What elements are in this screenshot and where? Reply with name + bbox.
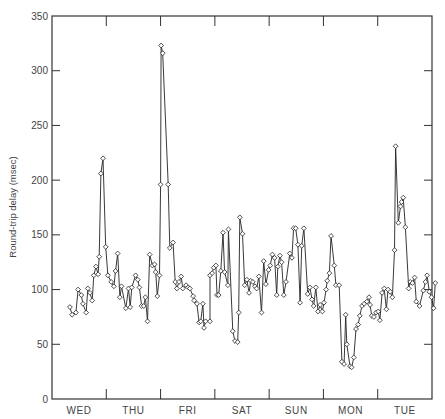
data-point-marker xyxy=(76,287,81,292)
data-point-marker xyxy=(106,273,111,278)
data-point-marker xyxy=(368,302,373,307)
data-point-marker xyxy=(351,355,356,360)
x-tick-label-fri: FRI xyxy=(179,405,197,416)
data-point-marker xyxy=(226,227,231,232)
data-point-marker xyxy=(113,269,118,274)
data-point-marker xyxy=(135,277,140,282)
data-point-marker xyxy=(390,295,395,300)
data-point-marker xyxy=(159,43,164,48)
data-point-marker xyxy=(354,327,359,332)
data-point-marker xyxy=(85,286,90,291)
data-point-marker xyxy=(287,251,292,256)
data-point-marker xyxy=(155,294,160,299)
y-tick-label: 250 xyxy=(31,120,48,131)
y-tick-label: 150 xyxy=(31,229,48,240)
data-point-marker xyxy=(91,273,96,278)
data-point-marker xyxy=(128,305,133,310)
data-point-marker xyxy=(393,144,398,149)
data-point-marker xyxy=(109,280,114,285)
data-point-marker xyxy=(117,295,122,300)
data-point-marker xyxy=(147,252,152,257)
data-point-marker xyxy=(311,304,316,309)
data-point-marker xyxy=(329,234,334,239)
data-point-marker xyxy=(153,270,158,275)
data-point-marker xyxy=(98,171,103,176)
y-tick-label: 200 xyxy=(31,175,48,186)
line-chart: 050100150200250300350 WEDTHUFRISATSUNMON… xyxy=(0,0,445,419)
data-point-marker xyxy=(412,275,417,280)
data-point-marker xyxy=(279,260,284,265)
data-point-marker xyxy=(377,318,382,323)
data-point-marker xyxy=(421,288,426,293)
x-tick-label-thu: THU xyxy=(122,405,144,416)
x-tick-label-mon: MON xyxy=(338,405,363,416)
data-point-marker xyxy=(320,309,325,314)
data-point-marker xyxy=(325,278,330,283)
data-point-marker xyxy=(384,307,389,312)
data-point-marker xyxy=(68,305,73,310)
data-point-marker xyxy=(301,226,306,231)
x-tick-label-tue: TUE xyxy=(394,405,416,416)
data-point-marker xyxy=(143,295,148,300)
data-point-marker xyxy=(88,290,93,295)
data-point-marker xyxy=(281,293,286,298)
data-point-marker xyxy=(307,285,312,290)
data-point-marker xyxy=(332,263,337,268)
data-point-marker xyxy=(327,271,332,276)
data-point-marker xyxy=(433,281,438,286)
data-point-marker xyxy=(123,306,128,311)
data-point-marker xyxy=(230,329,235,334)
data-point-marker xyxy=(133,273,138,278)
data-point-marker xyxy=(263,282,268,287)
data-point-marker xyxy=(324,287,329,292)
y-axis-title: Round-trip delay (msec) xyxy=(7,156,18,257)
data-point-marker xyxy=(343,312,348,317)
y-tick-label: 100 xyxy=(31,284,48,295)
data-point-marker xyxy=(174,286,179,291)
data-point-marker xyxy=(111,284,116,289)
data-point-marker xyxy=(158,182,163,187)
data-point-marker xyxy=(177,280,182,285)
data-point-marker xyxy=(427,289,432,294)
data-point-marker xyxy=(403,225,408,230)
data-point-marker xyxy=(337,283,342,288)
data-point-marker xyxy=(298,300,303,305)
data-point-marker xyxy=(81,301,86,306)
data-point-marker xyxy=(137,285,142,290)
x-tick-label-sat: SAT xyxy=(232,405,253,416)
data-point-marker xyxy=(313,285,318,290)
data-point-marker xyxy=(242,283,247,288)
plot-frame xyxy=(52,16,432,399)
y-tick-label: 50 xyxy=(37,339,49,350)
data-point-marker xyxy=(179,274,184,279)
data-point-marker xyxy=(225,283,230,288)
data-point-marker xyxy=(103,244,108,249)
data-point-marker xyxy=(240,231,245,236)
data-point-marker xyxy=(157,273,162,278)
data-point-marker xyxy=(423,280,428,285)
data-point-marker xyxy=(90,298,95,303)
x-tick-label-sun: SUN xyxy=(285,405,308,416)
data-point-marker xyxy=(259,310,264,315)
data-point-marker xyxy=(275,264,280,269)
data-point-marker xyxy=(398,204,403,209)
data-point-marker xyxy=(166,182,171,187)
data-point-marker xyxy=(94,264,99,269)
data-point-marker xyxy=(261,259,266,264)
data-point-marker xyxy=(357,313,362,318)
data-point-marker xyxy=(392,248,397,253)
data-point-marker xyxy=(221,230,226,235)
data-point-marker xyxy=(367,295,372,300)
data-point-marker xyxy=(97,254,102,259)
data-point-marker xyxy=(425,273,430,278)
data-point-marker xyxy=(274,293,279,298)
data-point-marker xyxy=(171,240,176,245)
y-tick-label: 300 xyxy=(31,65,48,76)
data-point-marker xyxy=(115,251,120,256)
data-point-marker xyxy=(145,319,150,324)
data-point-marker xyxy=(96,272,101,277)
data-point-marker xyxy=(79,293,84,298)
data-point-marker xyxy=(84,310,89,315)
data-point-marker xyxy=(247,290,252,295)
data-point-marker xyxy=(396,220,401,225)
